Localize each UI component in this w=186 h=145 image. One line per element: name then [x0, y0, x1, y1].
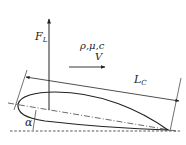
trailing-edge-extension-line — [170, 78, 181, 131]
velocity-label: V — [95, 52, 102, 62]
leading-edge-extension-line — [14, 70, 27, 110]
airfoil-profile — [18, 92, 168, 130]
lift-force-label: FL — [35, 31, 47, 44]
angle-of-attack-marker — [33, 110, 36, 130]
angle-of-attack-label: α — [25, 117, 32, 128]
flow-properties-label: ρ,μ,c — [80, 41, 104, 51]
chord-length-label: LC — [134, 74, 147, 87]
